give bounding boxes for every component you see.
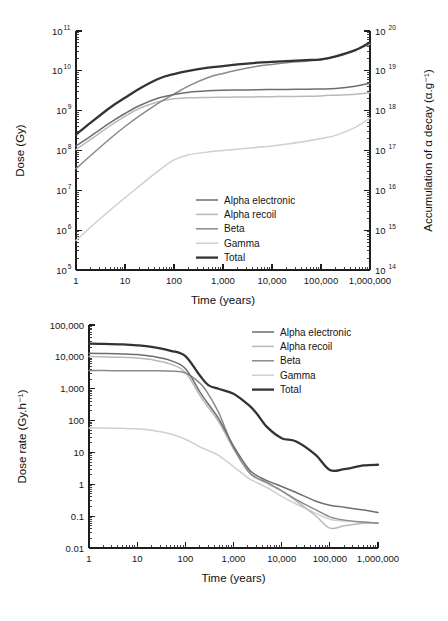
y-tick-label: 109 <box>56 103 72 116</box>
svg-text:1: 1 <box>79 479 84 490</box>
chart-panel-dose-rate: 100,00010,0001,0001001010.10.011101001,0… <box>0 310 448 621</box>
x-tick-label: 10 <box>132 553 143 564</box>
y-tick-label: 100,000 <box>50 320 84 331</box>
series-line-alpha_electronic <box>89 353 378 512</box>
svg-text:10: 10 <box>52 65 63 76</box>
svg-text:Accumulation of α decay (α.g⁻¹: Accumulation of α decay (α.g⁻¹) <box>422 69 434 232</box>
y2-tick-label: 1020 <box>375 24 396 37</box>
svg-text:100: 100 <box>68 415 84 426</box>
x-tick-label: 1,000 <box>211 275 235 286</box>
svg-text:18: 18 <box>389 103 397 110</box>
svg-text:10: 10 <box>56 185 67 196</box>
y-tick-label: 100 <box>68 415 84 426</box>
y-tick-label: 10 <box>73 447 84 458</box>
y-tick-label: 108 <box>56 143 72 156</box>
svg-text:10: 10 <box>56 145 67 156</box>
svg-text:16: 16 <box>389 183 397 190</box>
y2-tick-label: 1014 <box>375 263 396 276</box>
y-tick-label: 0.01 <box>66 543 85 554</box>
y-tick-label: 107 <box>56 183 72 196</box>
x-tick-label: 1,000,000 <box>349 275 391 286</box>
legend-label-beta: Beta <box>280 355 301 366</box>
x-tick-label: 1 <box>86 553 91 564</box>
x-axis-title: Time (years) <box>191 294 255 306</box>
svg-text:10: 10 <box>375 65 386 76</box>
svg-text:10: 10 <box>56 225 67 236</box>
legend-label-total: Total <box>280 384 301 395</box>
svg-text:14: 14 <box>389 263 397 270</box>
svg-text:100,000: 100,000 <box>50 320 84 331</box>
y-tick-label: 1010 <box>52 63 71 76</box>
x-tick-label: 100 <box>177 553 193 564</box>
legend-label-alpha_recoil: Alpha recoil <box>280 341 332 352</box>
svg-text:19: 19 <box>389 63 397 70</box>
svg-text:7: 7 <box>68 183 72 190</box>
legend: Alpha electronicAlpha recoilBetaGammaTot… <box>252 327 351 396</box>
y2-tick-label: 1015 <box>375 223 396 236</box>
y-tick-label: 1,000 <box>60 383 84 394</box>
legend-label-alpha_recoil: Alpha recoil <box>224 209 276 220</box>
series-line-total <box>89 344 378 471</box>
svg-text:5: 5 <box>68 263 72 270</box>
svg-text:1,000: 1,000 <box>60 383 84 394</box>
svg-text:20: 20 <box>389 24 397 31</box>
svg-text:10: 10 <box>52 26 63 37</box>
y2-tick-label: 1016 <box>375 183 396 196</box>
legend-label-gamma: Gamma <box>224 238 260 249</box>
figure-container: 1051061071081091010101110141015101610171… <box>0 0 448 621</box>
svg-text:8: 8 <box>68 143 72 150</box>
svg-text:15: 15 <box>389 223 397 230</box>
y2-tick-label: 1019 <box>375 63 396 76</box>
series-line-gamma <box>76 118 370 240</box>
x-tick-label: 10,000 <box>257 275 286 286</box>
series-line-gamma <box>89 428 378 523</box>
dose-accumulation-svg: 1051061071081091010101110141015101610171… <box>0 0 448 310</box>
svg-text:11: 11 <box>64 24 71 31</box>
series-group <box>76 42 370 240</box>
svg-text:6: 6 <box>68 223 72 230</box>
svg-text:0.01: 0.01 <box>66 543 85 554</box>
legend-label-beta: Beta <box>224 223 245 234</box>
svg-text:10: 10 <box>375 185 386 196</box>
series-line-alpha_recoil <box>89 357 378 529</box>
y2-tick-label: 1017 <box>375 143 396 156</box>
y-axis-title: Dose (Gy) <box>14 124 26 177</box>
x-tick-label: 100 <box>166 275 182 286</box>
svg-text:10: 10 <box>375 26 386 37</box>
legend-label-alpha_electronic: Alpha electronic <box>280 327 351 338</box>
svg-text:10: 10 <box>375 225 386 236</box>
x-tick-label: 10 <box>120 275 131 286</box>
svg-text:10: 10 <box>375 145 386 156</box>
svg-text:0.1: 0.1 <box>71 511 84 522</box>
y-tick-label: 0.1 <box>71 511 84 522</box>
x-tick-label: 100,000 <box>304 275 338 286</box>
x-tick-label: 1,000 <box>222 553 246 564</box>
y-tick-label: 106 <box>56 223 72 236</box>
svg-text:10,000: 10,000 <box>55 351 84 362</box>
x-axis-title: Time (years) <box>201 572 265 584</box>
x-tick-label: 1 <box>73 275 78 286</box>
y-tick-label: 1 <box>79 479 84 490</box>
series-group <box>89 344 378 529</box>
svg-text:10: 10 <box>56 105 67 116</box>
y2-axis-title: Accumulation of α decay (α.g⁻¹) <box>422 69 434 232</box>
x-tick-label: 100,000 <box>313 553 347 564</box>
dose-rate-svg: 100,00010,0001,0001001010.10.011101001,0… <box>0 310 448 621</box>
legend: Alpha electronicAlpha recoilBetaGammaTot… <box>196 195 295 264</box>
chart-panel-dose-accumulation: 1051061071081091010101110141015101610171… <box>0 0 448 310</box>
y-tick-label: 1011 <box>52 24 71 37</box>
x-tick-label: 1,000,000 <box>357 553 399 564</box>
svg-text:10: 10 <box>56 265 67 276</box>
svg-text:17: 17 <box>389 143 397 150</box>
series-line-alpha_electronic <box>76 83 370 146</box>
legend-label-total: Total <box>224 252 245 263</box>
y-tick-label: 10,000 <box>55 351 84 362</box>
x-tick-label: 10,000 <box>267 553 296 564</box>
svg-text:10: 10 <box>375 105 386 116</box>
legend-label-gamma: Gamma <box>280 370 316 381</box>
y-tick-label: 105 <box>56 263 72 276</box>
legend-label-alpha_electronic: Alpha electronic <box>224 195 295 206</box>
y-axis-title: Dose rate (Gy.h⁻¹) <box>16 389 28 483</box>
y2-tick-label: 1018 <box>375 103 396 116</box>
svg-text:10: 10 <box>73 447 84 458</box>
